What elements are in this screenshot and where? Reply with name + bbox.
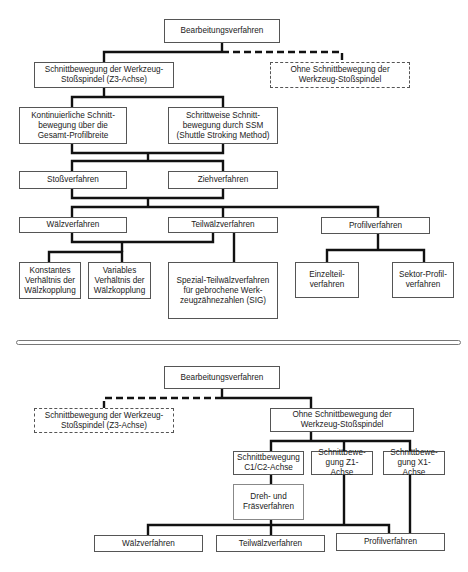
top-stepwise-box: Schrittweise Schnitt-bewegung durch SSM …: [168, 107, 278, 144]
top-variables-box: Variables Verhältnis der Wälzkopplung: [88, 262, 151, 299]
top-stoss-box: Stoßverfahren: [19, 171, 127, 189]
bottom-dreh-fraes-box: Dreh- und Fräsverfahren: [233, 484, 304, 520]
bottom-waelz-label: Wälzverfahren: [122, 539, 175, 549]
top-waelz-box: Wälzverfahren: [19, 217, 127, 233]
bottom-c1c2-label: Schnittbewegung C1/C2-Achse: [237, 453, 300, 473]
bottom-profil-label: Profilverfahren: [364, 537, 417, 547]
top-zieh-label: Ziehverfahren: [198, 175, 249, 185]
top-z3-box: Schnittbewegung der Werkzeug-Stoßspindel…: [34, 62, 174, 88]
bottom-c1c2-box: Schnittbewegung C1/C2-Achse: [233, 451, 304, 475]
bottom-x1-label: Schnittbewe-gung X1-Achse: [387, 448, 441, 478]
top-teilwaelz-label: Teilwälzverfahren: [191, 220, 254, 230]
bottom-z3-box: Schnittbewegung der Werkzeug-Stoßspindel…: [34, 408, 174, 433]
bottom-x1-box: Schnittbewe-gung X1-Achse: [383, 451, 445, 475]
top-z3-label: Schnittbewegung der Werkzeug-Stoßspindel…: [38, 65, 170, 85]
top-ohne-label: Ohne Schnittbewegung der Werkzeug-Stoßsp…: [274, 65, 406, 85]
top-profil-box: Profilverfahren: [321, 217, 430, 234]
bottom-ohne-box: Ohne Schnittbewegung der Werkzeug-Stoßsp…: [270, 408, 414, 432]
top-sektor-box: Sektor-Profil-verfahren: [392, 262, 454, 298]
top-ohne-box: Ohne Schnittbewegung der Werkzeug-Stoßsp…: [270, 62, 410, 88]
bottom-teilwaelz-box: Teilwälzverfahren: [216, 535, 325, 552]
bottom-teilwaelz-label: Teilwälzverfahren: [239, 539, 302, 549]
top-waelz-label: Wälzverfahren: [47, 220, 100, 230]
section-separator: [16, 340, 461, 345]
top-einzelteil-label: Einzelteil-verfahren: [299, 270, 355, 290]
bottom-z1-box: Schnittbewe-gung Z1-Achse: [311, 451, 373, 475]
top-continuous-label: Kontinuierliche Schnitt-bewegung über di…: [23, 111, 123, 141]
bottom-root-label: Bearbeitungsverfahren: [181, 373, 264, 383]
bottom-z3-label: Schnittbewegung der Werkzeug-Stoßspindel…: [38, 411, 170, 431]
top-stepwise-label: Schrittweise Schnitt-bewegung durch SSM …: [172, 111, 274, 141]
top-stoss-label: Stoßverfahren: [47, 175, 99, 185]
top-einzelteil-box: Einzelteil-verfahren: [295, 262, 359, 298]
top-zieh-box: Ziehverfahren: [168, 171, 278, 189]
bottom-profil-box: Profilverfahren: [336, 533, 445, 551]
top-profil-label: Profilverfahren: [349, 221, 402, 231]
bottom-z1-label: Schnittbewe-gung Z1-Achse: [315, 448, 369, 478]
top-sig-label: Spezial-Teilwälzverfahren für gebrochene…: [172, 276, 274, 306]
top-sig-box: Spezial-Teilwälzverfahren für gebrochene…: [168, 262, 278, 319]
top-continuous-box: Kontinuierliche Schnitt-bewegung über di…: [19, 107, 127, 144]
bottom-waelz-box: Wälzverfahren: [94, 535, 203, 552]
bottom-dreh-fraes-label: Dreh- und Fräsverfahren: [237, 492, 300, 512]
bottom-root-box: Bearbeitungsverfahren: [164, 366, 280, 389]
top-root-label: Bearbeitungsverfahren: [181, 26, 264, 36]
top-root-box: Bearbeitungsverfahren: [164, 19, 280, 43]
top-konstantes-box: Konstantes Verhältnis der Wälzkopplung: [19, 262, 81, 299]
top-teilwaelz-box: Teilwälzverfahren: [168, 217, 278, 233]
top-konstantes-label: Konstantes Verhältnis der Wälzkopplung: [23, 266, 77, 296]
top-variables-label: Variables Verhältnis der Wälzkopplung: [92, 266, 147, 296]
top-sektor-label: Sektor-Profil-verfahren: [396, 270, 450, 290]
bottom-ohne-label: Ohne Schnittbewegung der Werkzeug-Stoßsp…: [274, 410, 410, 430]
